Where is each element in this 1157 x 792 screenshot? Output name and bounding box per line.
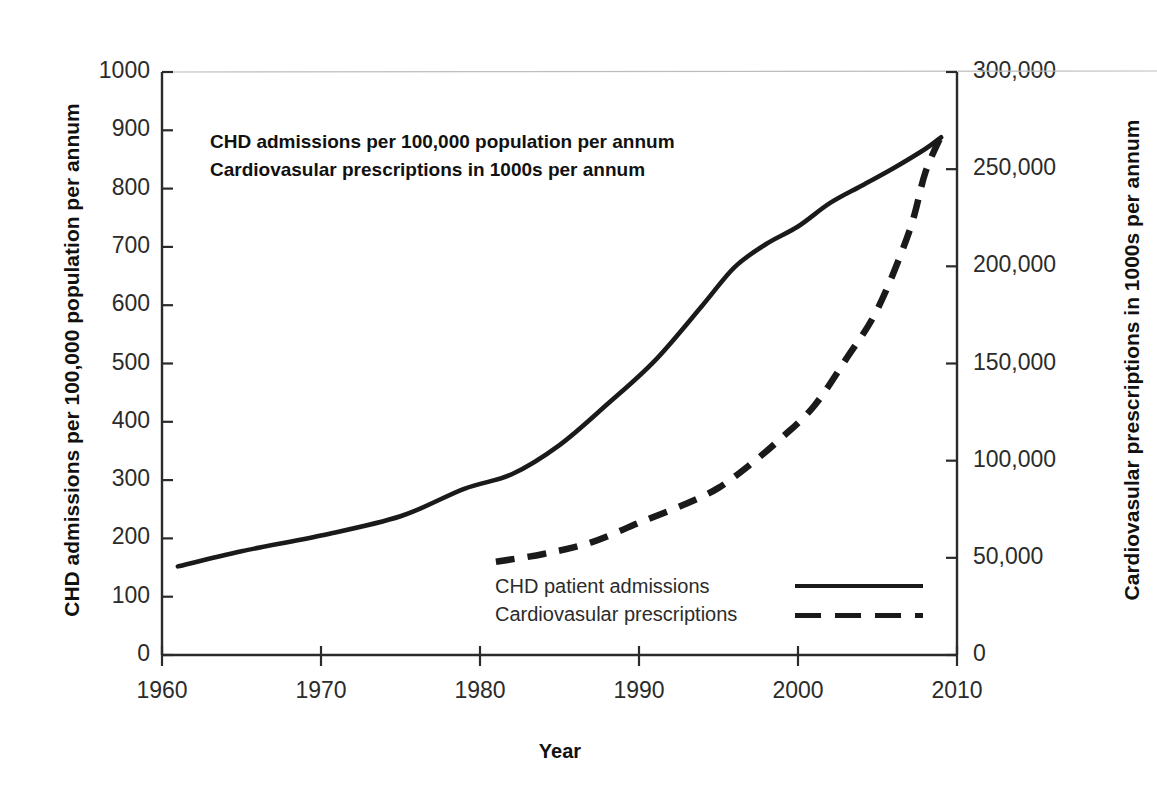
plot-area	[0, 0, 1157, 792]
chart-legend: CHD patient admissions Cardiovasular pre…	[495, 572, 923, 629]
legend-swatch-dashed	[795, 608, 923, 622]
series-line-chd-admissions	[178, 137, 941, 566]
top-rule	[162, 71, 1157, 72]
legend-label-prescriptions: Cardiovasular prescriptions	[495, 600, 795, 628]
chart-figure: CHD admissions per 100,000 population pe…	[0, 0, 1157, 792]
legend-item-prescriptions: Cardiovasular prescriptions	[495, 600, 923, 628]
legend-label-chd: CHD patient admissions	[495, 572, 795, 600]
legend-item-chd: CHD patient admissions	[495, 572, 923, 600]
legend-swatch-solid	[795, 579, 923, 593]
series-line-cardiovascular-prescriptions	[496, 136, 941, 562]
